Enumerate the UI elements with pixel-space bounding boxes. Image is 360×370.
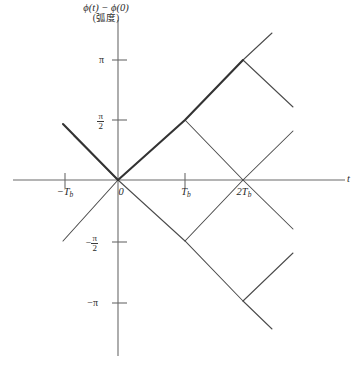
bold-path-up-right [118,60,243,180]
fraction-pi-over-2: π 2 [97,112,104,131]
bold-path-up-left [63,124,118,180]
branch-from-2tb-negpi-down [243,301,272,329]
branch-from-2tb-pi-down [243,60,293,107]
y-tick-label-pi: π [78,54,104,65]
phase-trellis-figure: ϕ(t) − ϕ(0) (弧度) t π π 2 − π 2 −π −Tb 0 … [0,0,360,370]
branch-from-2tb-negpi-up [243,253,293,301]
subscript-b: b [70,190,74,199]
y-axis-title: ϕ(t) − ϕ(0) (弧度) [60,2,152,24]
fraction-neg-pi-over-2: π 2 [91,234,98,253]
fraction-denominator: 2 [91,244,98,253]
branch-from-2tb-pi-up [243,33,272,60]
x-tick-label-neg-tb: −Tb [42,186,88,199]
branch-from-2tb-zero-up [243,131,293,180]
branch-from-tb-down [185,120,243,180]
x-tick-label-2tb: 2Tb [221,186,267,199]
x-axis-title: t [347,173,350,184]
subscript-b: b [187,190,191,199]
y-axis-title-main: ϕ(t) − ϕ(0) [83,2,128,13]
trellis-branches [63,33,293,329]
y-tick-label-pi-half: π 2 [78,112,104,131]
y-axis-unit: (弧度) [60,14,152,24]
paren-close: ) [116,13,119,23]
x-tick-label-tb: Tb [163,186,209,199]
x-tick-label-zero: 0 [98,186,144,197]
y-tick-label-neg-pi-half: − π 2 [72,234,98,253]
trellis-plot-canvas [0,0,360,370]
y-tick-label-neg-pi: −π [72,297,98,308]
unit-text: 弧度 [96,13,116,23]
subscript-b: b [248,190,252,199]
fraction-denominator: 2 [97,122,104,131]
